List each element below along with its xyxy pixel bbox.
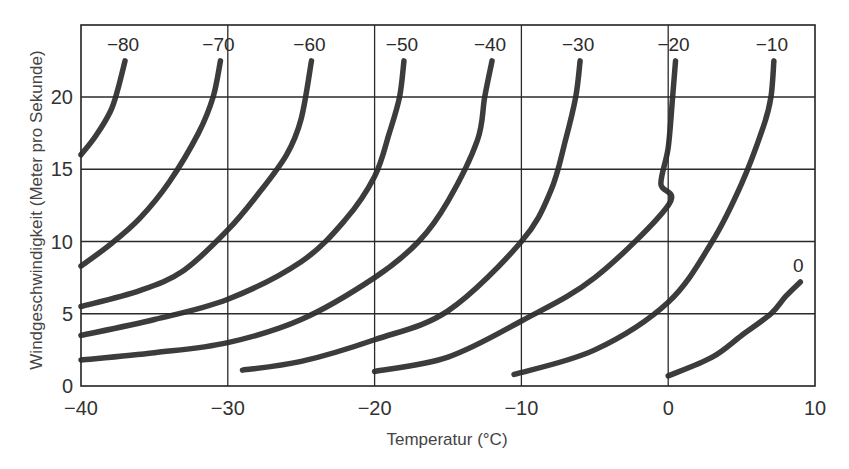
- curve-label: −20: [657, 34, 689, 55]
- y-tick-label: 15: [51, 158, 73, 180]
- x-tick-label: −10: [504, 397, 538, 419]
- curve-label: −40: [474, 34, 506, 55]
- curve-labels: −80−70−60−50−40−30−20−100: [107, 34, 804, 276]
- chart-canvas: −80−70−60−50−40−30−20−100 −40−30−20−1001…: [0, 0, 849, 469]
- curve-0: [668, 282, 800, 376]
- y-tick-label: 10: [51, 231, 73, 253]
- wind-chill-chart: −80−70−60−50−40−30−20−100 −40−30−20−1001…: [0, 0, 849, 469]
- y-tick-label: 20: [51, 86, 73, 108]
- curve-label: −50: [386, 34, 418, 55]
- y-axis-label: Windgeschwindigkeit (Meter pro Sekunde): [27, 50, 46, 369]
- curve-minus70: [81, 61, 220, 266]
- temperature-curves: [81, 61, 800, 376]
- x-tick-label: −40: [64, 397, 98, 419]
- axis-ticks: −40−30−20−1001005101520: [51, 86, 826, 419]
- curve-label: −10: [756, 34, 788, 55]
- curve-label: −60: [293, 34, 325, 55]
- curve-label: −70: [202, 34, 234, 55]
- curve-label: −30: [562, 34, 594, 55]
- curve-label: 0: [793, 255, 804, 276]
- x-tick-label: −20: [358, 397, 392, 419]
- y-tick-label: 5: [62, 303, 73, 325]
- x-axis-label: Temperatur (°C): [386, 430, 507, 449]
- curve-label: −80: [107, 34, 139, 55]
- x-tick-label: 0: [663, 397, 674, 419]
- y-tick-label: 0: [62, 375, 73, 397]
- curve-minus80: [81, 61, 125, 155]
- x-tick-label: −30: [211, 397, 245, 419]
- curve-minus40: [81, 61, 492, 360]
- curve-minus10: [514, 61, 774, 375]
- x-tick-label: 10: [804, 397, 826, 419]
